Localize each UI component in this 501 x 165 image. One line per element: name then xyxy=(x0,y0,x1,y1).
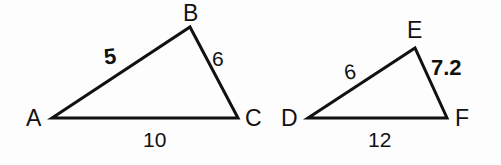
vertex-label-d: D xyxy=(281,107,298,130)
side-label-df: 12 xyxy=(368,129,391,150)
side-label-ab: 5 xyxy=(103,45,117,68)
geometry-figure: A B C 5 6 10 D E F 6 7.2 12 xyxy=(0,0,501,165)
triangle-def-outline xyxy=(308,48,447,118)
triangles-canvas xyxy=(0,0,501,165)
vertex-label-b: B xyxy=(183,2,198,25)
triangle-abc-outline xyxy=(52,27,238,118)
vertex-label-c: C xyxy=(245,107,262,130)
vertex-label-e: E xyxy=(407,19,422,42)
vertex-label-a: A xyxy=(26,107,41,130)
side-label-ef: 7.2 xyxy=(431,57,462,79)
vertex-label-f: F xyxy=(455,107,469,130)
side-label-bc: 6 xyxy=(212,48,224,69)
side-label-ac: 10 xyxy=(143,129,166,150)
